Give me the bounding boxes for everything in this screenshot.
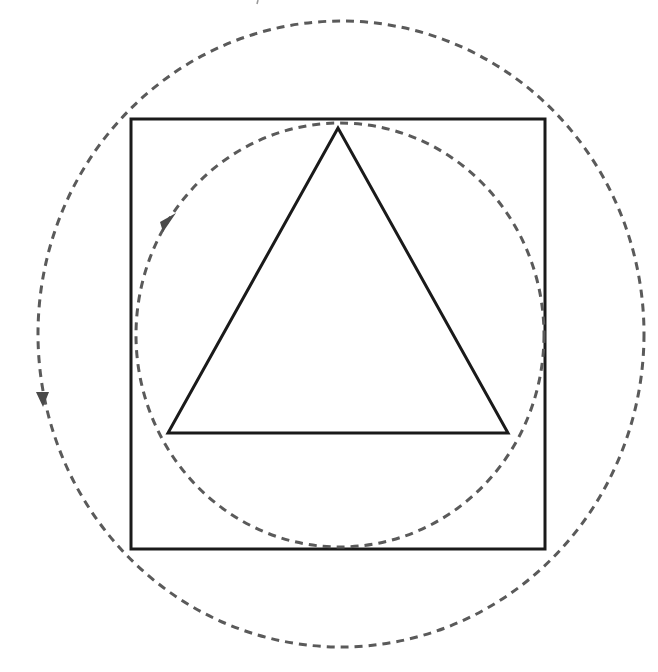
background [0, 0, 658, 672]
top-tick-mark [257, 0, 258, 4]
geometry-diagram [0, 0, 658, 672]
